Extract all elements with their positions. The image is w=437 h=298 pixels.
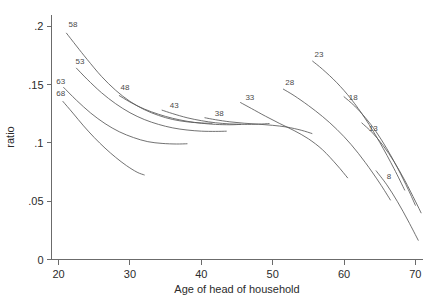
cohort-label-8: 8 xyxy=(387,172,392,181)
y-tick-label: .05 xyxy=(28,195,43,207)
cohort-curve-8 xyxy=(376,171,418,240)
cohort-label-63: 63 xyxy=(56,77,65,86)
cohort-curve-53 xyxy=(76,68,226,131)
x-axis-title: Age of head of household xyxy=(174,283,299,295)
x-tick-label: 60 xyxy=(338,268,350,280)
x-tick-label: 20 xyxy=(53,268,65,280)
x-tick-label: 30 xyxy=(124,268,136,280)
cohort-label-43: 43 xyxy=(170,101,179,110)
y-tick-label: .2 xyxy=(34,20,43,32)
series-labels-group: 6863585348433833282318138 xyxy=(56,20,391,181)
cohort-label-23: 23 xyxy=(315,50,324,59)
cohort-label-48: 48 xyxy=(121,83,130,92)
cohort-label-33: 33 xyxy=(245,93,254,102)
cohort-curve-58 xyxy=(66,33,212,123)
cohort-label-68: 68 xyxy=(56,89,65,98)
x-tick-label: 40 xyxy=(195,268,207,280)
y-tick-label: 0 xyxy=(37,254,43,266)
y-tick-label: .1 xyxy=(34,137,43,149)
cohort-curve-63 xyxy=(64,87,187,144)
curves-group xyxy=(63,33,421,240)
y-tick-label: .15 xyxy=(28,79,43,91)
cohort-curve-28 xyxy=(283,89,390,200)
cohort-curve-68 xyxy=(63,101,144,175)
x-tick-label: 50 xyxy=(267,268,279,280)
chart-container: 0.05.1.15.2203040506070 6863585348433833… xyxy=(0,0,437,298)
y-axis-title: ratio xyxy=(4,126,16,147)
cohort-label-28: 28 xyxy=(285,78,294,87)
cohort-label-58: 58 xyxy=(68,20,77,29)
cohort-curve-18 xyxy=(344,97,415,206)
axes-group xyxy=(52,15,423,260)
x-tick-label: 70 xyxy=(409,268,421,280)
cohort-label-18: 18 xyxy=(349,93,358,102)
cohort-curve-33 xyxy=(241,103,348,178)
cohort-curve-13 xyxy=(362,123,421,213)
cohort-label-38: 38 xyxy=(215,109,224,118)
cohort-label-13: 13 xyxy=(369,124,378,133)
cohort-ratio-line-chart: 0.05.1.15.2203040506070 6863585348433833… xyxy=(0,0,437,298)
cohort-label-53: 53 xyxy=(76,57,85,66)
cohort-curve-23 xyxy=(313,61,405,190)
axis-lines xyxy=(52,15,423,260)
axis-titles-group: Age of head of householdratio xyxy=(4,126,300,294)
